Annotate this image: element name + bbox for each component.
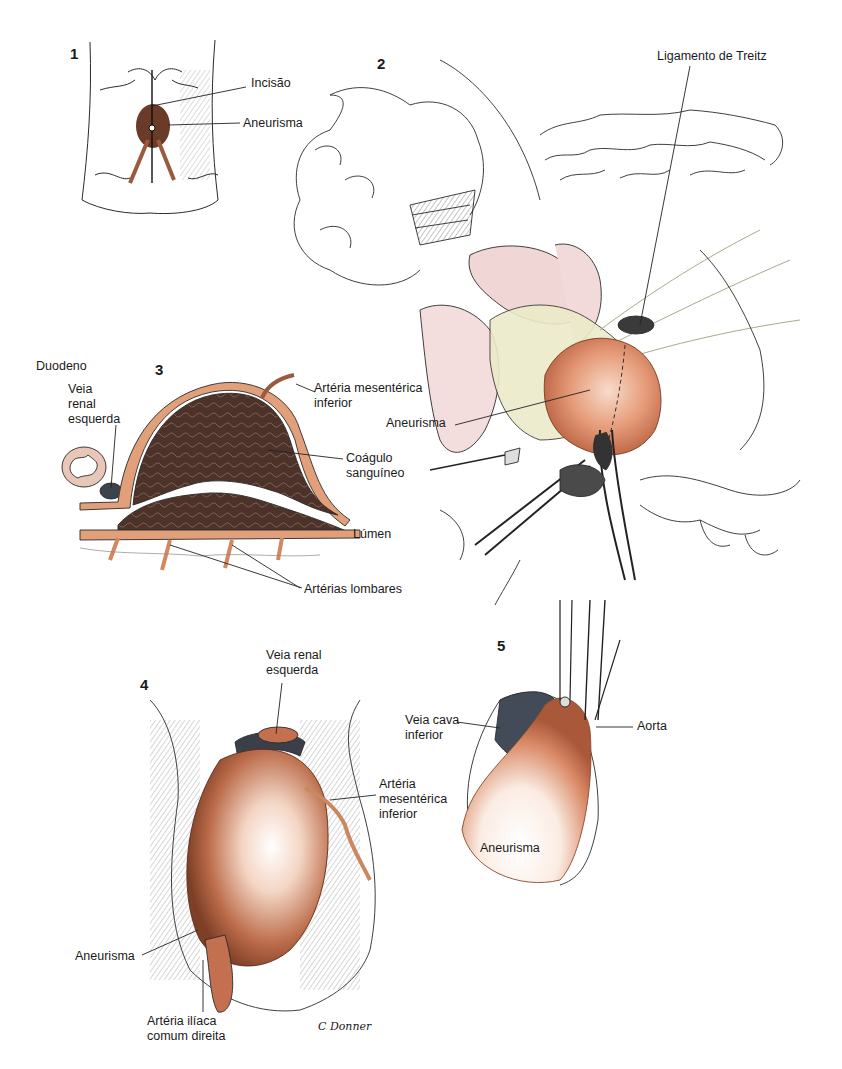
label-aorta: Aorta [637, 719, 667, 734]
label-arteria-mesenterica-inferior-panel-3: Artéria mesentérica inferior [314, 381, 422, 411]
panel-number-3: 3 [155, 362, 163, 377]
panel-number-5: 5 [497, 638, 505, 653]
illustration-artwork [0, 0, 842, 1069]
label-arteria-mesenterica-inferior-panel-4: Artéria mesentérica inferior [379, 777, 447, 822]
figure-canvas: 1 2 3 4 5 Incisão Aneurisma Ligamento de… [0, 0, 842, 1069]
label-arterias-lombares: Artérias lombares [304, 582, 402, 597]
artist-signature: C Donner [318, 1020, 371, 1033]
label-arteria-iliaca-comum-direita: Artéria ilíaca comum direita [147, 1014, 226, 1044]
panel-number-4: 4 [140, 677, 148, 692]
label-veia-renal-esquerda-panel-4: Veia renal esquerda [266, 648, 322, 678]
label-veia-renal-esquerda-panel-3: Veia renal esquerda [68, 382, 120, 427]
panel-number-1: 1 [70, 46, 78, 61]
label-veia-cava-inferior: Veia cava inferior [405, 713, 459, 743]
label-aneurisma-panel-1: Aneurisma [243, 116, 303, 131]
label-ligamento-de-treitz: Ligamento de Treitz [657, 49, 767, 64]
panel-2-operative-field [294, 60, 800, 605]
label-duodeno: Duodeno [36, 359, 87, 374]
label-lumen: Lúmen [353, 527, 391, 542]
panel-4-exposed-aneurysm [142, 683, 376, 1012]
label-incisao: Incisão [251, 76, 291, 91]
panel-1-torso [82, 40, 246, 214]
label-aneurisma-panel-4: Aneurisma [75, 949, 135, 964]
label-coagulo-sanguineo: Coágulo sanguíneo [346, 451, 404, 481]
label-aneurisma-panel-2: Aneurisma [386, 416, 446, 431]
panel-number-2: 2 [377, 56, 385, 71]
label-aneurisma-panel-5: Aneurisma [480, 841, 540, 856]
